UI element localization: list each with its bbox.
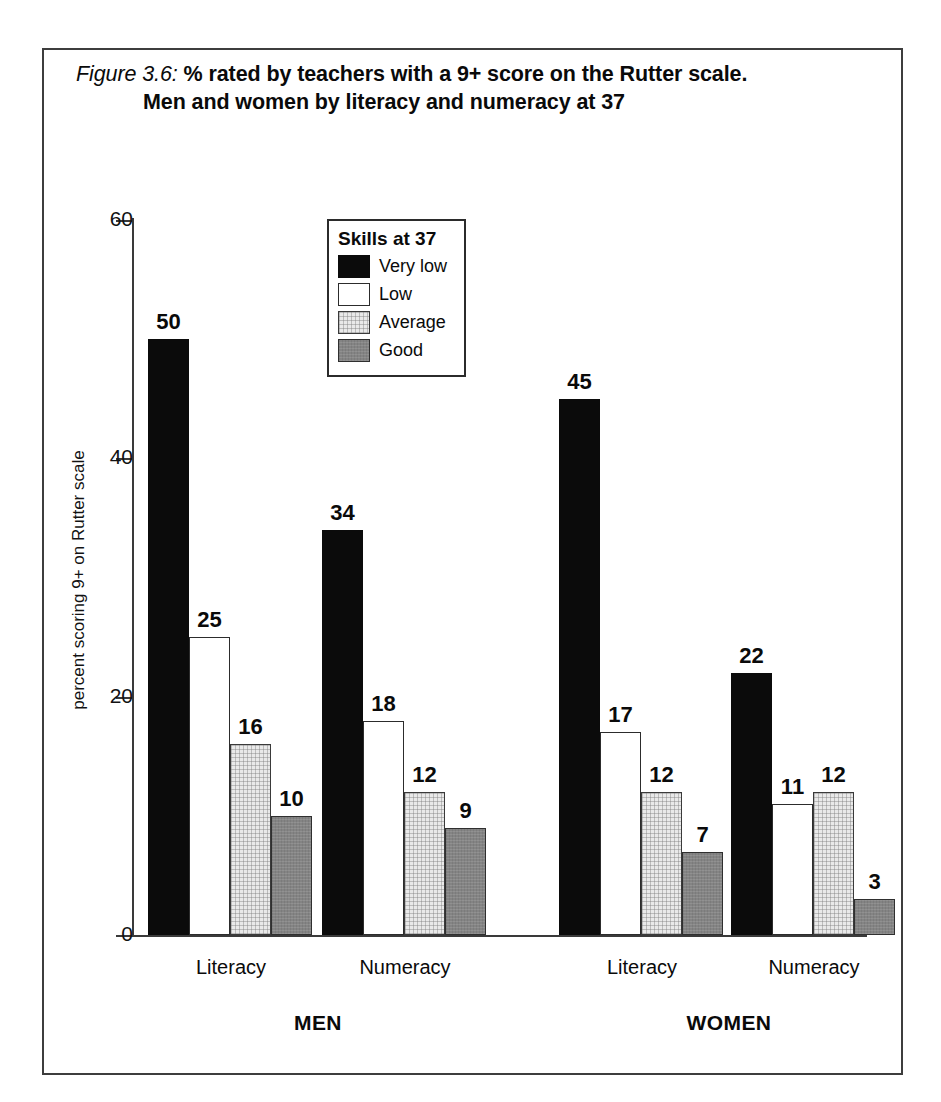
bar: 17 [600,732,641,935]
bar-value-label: 3 [868,869,880,895]
legend-label: Good [379,341,423,359]
bar: 3 [854,899,895,935]
page-background [0,0,941,24]
bars-container: 50251610341812945171272211123 [44,220,901,935]
legend-label: Average [379,313,446,331]
x-axis-category-label: Literacy [196,956,266,979]
bar-value-label: 22 [739,643,763,669]
chart-plot-area: 0204060 percent scoring 9+ on Rutter sca… [44,50,901,1073]
x-axis-category-label: Numeracy [768,956,859,979]
bar: 45 [559,399,600,935]
x-axis-category-label: Literacy [607,956,677,979]
figure-frame: Figure 3.6: % rated by teachers with a 9… [42,48,903,1075]
bar-value-label: 16 [238,714,262,740]
bar: 22 [731,673,772,935]
bar-value-label: 17 [608,702,632,728]
bar: 9 [445,828,486,935]
bar-value-label: 45 [567,369,591,395]
legend-label: Very low [379,257,447,275]
bar-value-label: 18 [371,691,395,717]
bar-value-label: 11 [781,774,804,800]
bar-value-label: 25 [197,607,221,633]
legend-entry: Good [338,338,455,363]
legend-entry: Very low [338,254,455,279]
legend-swatch [338,255,370,278]
legend-label: Low [379,285,412,303]
bar-value-label: 9 [459,798,471,824]
legend-title: Skills at 37 [338,228,455,250]
bar: 12 [404,792,445,935]
bar-value-label: 10 [279,786,303,812]
legend-entries: Very lowLowAverageGood [338,254,455,363]
x-axis-category-label: Numeracy [359,956,450,979]
legend-swatch [338,283,370,306]
legend-swatch [338,311,370,334]
bar: 7 [682,852,723,935]
bar: 25 [189,637,230,935]
bar: 10 [271,816,312,935]
bar-value-label: 34 [330,500,354,526]
x-axis-line [132,935,867,937]
bar-value-label: 12 [412,762,436,788]
bar-value-label: 7 [696,822,708,848]
legend-entry: Average [338,310,455,335]
bar: 12 [813,792,854,935]
bar: 11 [772,804,813,935]
bar: 12 [641,792,682,935]
chart-legend: Skills at 37 Very lowLowAverageGood [327,219,466,377]
legend-swatch [338,339,370,362]
bar-value-label: 50 [156,309,180,335]
bar: 16 [230,744,271,935]
x-axis-group-label: MEN [294,1011,342,1035]
bar: 34 [322,530,363,935]
bar: 18 [363,721,404,936]
bar-value-label: 12 [649,762,673,788]
bar: 50 [148,339,189,935]
legend-entry: Low [338,282,455,307]
bar-value-label: 12 [821,762,845,788]
x-axis-group-label: WOMEN [687,1011,772,1035]
